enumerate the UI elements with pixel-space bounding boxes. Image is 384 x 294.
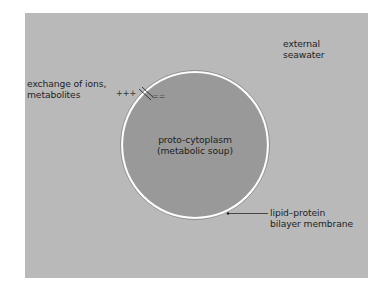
- external-seawater-label: external seawater: [283, 38, 324, 60]
- exchange-label: exchange of ions, metabolites: [27, 78, 106, 100]
- proto-cytoplasm-line2: (metabolic soup): [145, 145, 245, 156]
- external-seawater-line2: seawater: [283, 49, 324, 60]
- proto-cytoplasm-line1: proto-cytoplasm: [145, 134, 245, 145]
- external-seawater-line1: external: [283, 38, 324, 49]
- positive-charges: +++: [116, 89, 136, 98]
- membrane-leader-dot: [227, 212, 229, 214]
- membrane-label: lipid–protein bilayer membrane: [270, 207, 353, 229]
- negative-charges: ==: [152, 92, 165, 101]
- membrane-line1: lipid–protein: [270, 207, 353, 218]
- proto-cytoplasm-label: proto-cytoplasm (metabolic soup): [145, 134, 245, 156]
- exchange-line1: exchange of ions,: [27, 78, 106, 89]
- exchange-line2: metabolites: [27, 89, 106, 100]
- membrane-line2: bilayer membrane: [270, 218, 353, 229]
